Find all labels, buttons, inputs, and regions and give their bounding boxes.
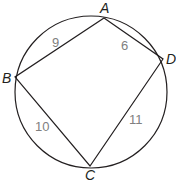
- side-length-dc: 11: [129, 112, 143, 127]
- quadrilateral-ABCD: [15, 18, 163, 166]
- vertex-label-c: C: [85, 167, 96, 180]
- side-length-ab: 9: [52, 35, 59, 50]
- side-length-bc: 10: [35, 119, 49, 134]
- vertex-label-d: D: [166, 51, 176, 67]
- diagram-canvas: A B C D 9 6 10 11: [0, 0, 176, 180]
- side-length-ad: 6: [121, 38, 128, 53]
- circle: [15, 16, 167, 168]
- vertex-label-b: B: [2, 70, 11, 86]
- vertex-label-a: A: [99, 0, 109, 16]
